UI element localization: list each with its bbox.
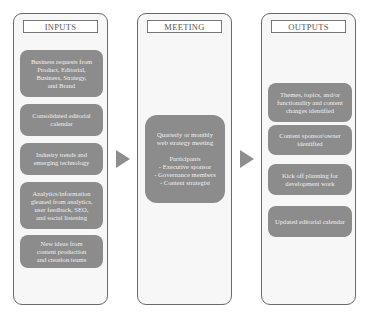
outputs-panel: OUTPUTS: [261, 13, 356, 305]
output-item-content-sponsor: Content sponsor/owner identified: [268, 125, 352, 155]
input-item-new-ideas: New ideas from content production and cr…: [20, 235, 103, 268]
output-item-updated-calendar: Updated editorial calendar: [268, 206, 352, 237]
input-item-editorial-calendar: Consolidated editorial calendar: [20, 104, 103, 136]
input-item-business-requests: Business requests from Product, Editoria…: [20, 50, 103, 97]
arrow-right-icon: [240, 150, 254, 168]
outputs-title: OUTPUTS: [271, 20, 346, 33]
arrow-right-icon: [116, 150, 130, 168]
input-item-analytics: Analytics/information gleaned from analy…: [20, 182, 103, 229]
input-item-industry-trends: Industry trends and emerging technology: [20, 143, 103, 175]
output-item-themes: Themes, topics, and/or functionality and…: [268, 83, 352, 122]
meeting-item-strategy-meeting: Quarterly or monthly web strategy meetin…: [145, 115, 225, 203]
meeting-title: MEETING: [147, 20, 222, 33]
inputs-title: INPUTS: [23, 20, 98, 33]
output-item-kick-off-planning: Kick off planning for development work: [268, 164, 352, 195]
